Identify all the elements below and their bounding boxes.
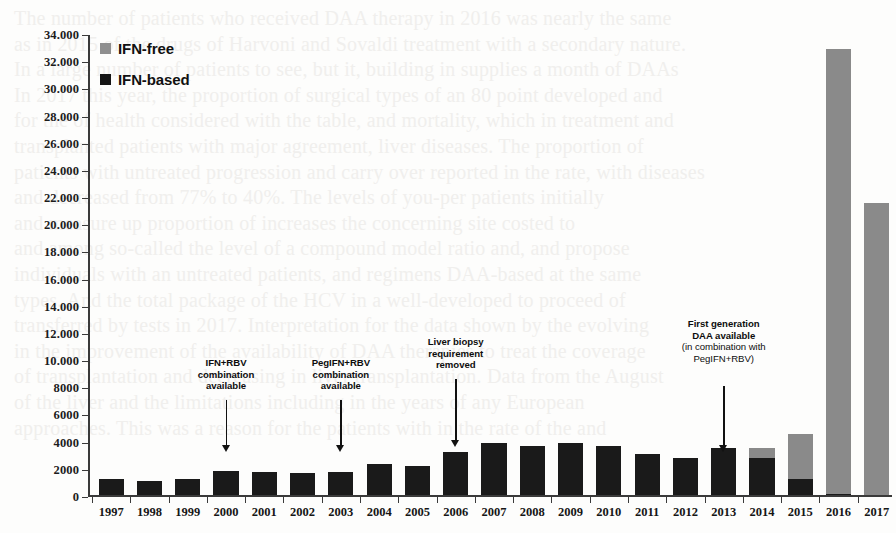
arrow-shaft xyxy=(226,400,227,445)
bar-segment-ifn-based xyxy=(367,464,392,495)
bar-segment-ifn-based xyxy=(749,458,774,495)
y-axis-tick-label: 28.000 xyxy=(44,109,79,124)
bar-series-group xyxy=(88,35,892,495)
x-axis-tick-label: 2015 xyxy=(788,505,813,520)
y-axis-tick-label: 18.000 xyxy=(44,245,79,260)
bar-stack xyxy=(290,473,315,495)
bar-segment-ifn-based xyxy=(520,446,545,495)
y-axis-tick-label: 10.000 xyxy=(44,354,79,369)
bar-stack xyxy=(635,454,660,495)
bar-segment-ifn-based xyxy=(711,448,736,495)
bar-stack xyxy=(749,448,774,495)
bar-stack xyxy=(788,434,813,495)
arrow-head xyxy=(336,445,344,452)
x-axis-tick-label: 2004 xyxy=(367,505,392,520)
annotation-title: PegIFN+RBV combination available xyxy=(289,357,393,392)
y-axis-tick-label: 24.000 xyxy=(44,163,79,178)
bar-stack xyxy=(405,466,430,495)
y-axis-tick-label: 2000 xyxy=(54,462,79,477)
bar-stack xyxy=(596,446,621,495)
x-axis-tick-label: 1997 xyxy=(99,505,124,520)
bar-segment-ifn-based xyxy=(137,481,162,495)
y-axis-tick-label: 0 xyxy=(73,490,79,505)
annotation-title: IFN+RBV combination available xyxy=(178,357,274,392)
x-axis-tick-label: 2017 xyxy=(864,505,889,520)
annotation-title: Liver biopsy requirement removed xyxy=(409,336,503,371)
x-axis-tick-label: 2016 xyxy=(826,505,851,520)
bar-segment-ifn-based xyxy=(558,443,583,495)
chart-annotation: Liver biopsy requirement removed xyxy=(409,336,503,371)
annotation-arrow-icon xyxy=(222,400,231,452)
annotation-subtitle: (in combination with PegIFN+RBV) xyxy=(665,341,783,364)
bar-stack xyxy=(864,203,889,495)
bar-stack xyxy=(99,479,124,495)
bar-segment-ifn-based xyxy=(328,472,353,495)
bar-segment-ifn-based xyxy=(290,473,315,495)
bar-segment-ifn-based xyxy=(673,458,698,495)
bar-stack xyxy=(520,446,545,495)
bar-segment-ifn-free xyxy=(788,434,813,479)
x-axis-line xyxy=(88,495,892,497)
x-axis-tick-label: 1999 xyxy=(175,505,200,520)
bar-stack xyxy=(328,472,353,495)
bar-stack xyxy=(213,471,238,495)
y-axis-tick-label: 12.000 xyxy=(44,326,79,341)
y-axis-tick-label: 34.000 xyxy=(44,28,79,43)
x-axis-tick-label: 2010 xyxy=(596,505,621,520)
bar-segment-ifn-based xyxy=(443,452,468,495)
bar-stack xyxy=(826,49,851,495)
x-axis-tick-label: 2009 xyxy=(558,505,583,520)
y-axis-tick xyxy=(82,497,88,498)
y-axis-tick-label: 16.000 xyxy=(44,272,79,287)
bar-segment-ifn-based xyxy=(788,479,813,495)
bar-segment-ifn-based xyxy=(252,472,277,495)
x-axis-tick-label: 2008 xyxy=(520,505,545,520)
bar-stack xyxy=(367,464,392,495)
x-axis-tick-label: 2000 xyxy=(214,505,239,520)
bar-segment-ifn-based xyxy=(481,443,506,495)
bar-segment-ifn-based xyxy=(175,479,200,495)
x-axis-tick-label: 2003 xyxy=(328,505,353,520)
x-axis-tick-label: 2002 xyxy=(290,505,315,520)
annotation-arrow-icon xyxy=(336,400,345,452)
y-axis-tick-label: 6000 xyxy=(54,408,79,423)
y-axis-tick-label: 8000 xyxy=(54,381,79,396)
bar-stack xyxy=(443,452,468,495)
bar-segment-ifn-based xyxy=(826,494,851,495)
bar-stack xyxy=(558,443,583,495)
arrow-head xyxy=(222,445,230,452)
chart-annotation: IFN+RBV combination available xyxy=(178,357,274,392)
x-axis-tick-label: 2005 xyxy=(405,505,430,520)
annotation-arrow-icon xyxy=(451,379,460,447)
arrow-shaft xyxy=(340,400,341,445)
bar-stack xyxy=(175,479,200,495)
arrow-head xyxy=(451,440,459,447)
bar-stack xyxy=(481,443,506,495)
arrow-shaft xyxy=(723,386,724,445)
arrow-head xyxy=(719,445,727,452)
arrow-shaft xyxy=(455,379,456,440)
y-axis-tick-label: 20.000 xyxy=(44,218,79,233)
bar-segment-ifn-based xyxy=(99,479,124,495)
y-axis-tick-label: 22.000 xyxy=(44,191,79,206)
x-axis-tick-label: 2007 xyxy=(482,505,507,520)
x-axis-tick-label: 1998 xyxy=(137,505,162,520)
chart-annotation: First generation DAA available(in combin… xyxy=(665,318,783,364)
x-axis-tick-label: 2001 xyxy=(252,505,277,520)
bar-stack xyxy=(711,448,736,495)
bar-segment-ifn-based xyxy=(213,471,238,495)
bar-segment-ifn-free xyxy=(826,49,851,493)
x-axis-tick-label: 2012 xyxy=(673,505,698,520)
plot-area: 0200040006000800010.00012.00014.00016.00… xyxy=(88,35,892,497)
y-axis-tick-label: 26.000 xyxy=(44,136,79,151)
x-axis-labels: 1997199819992000200120022003200420052006… xyxy=(88,501,892,531)
bar-segment-ifn-based xyxy=(405,466,430,495)
y-axis-tick-label: 4000 xyxy=(54,435,79,450)
y-axis-tick-label: 30.000 xyxy=(44,82,79,97)
bar-segment-ifn-free xyxy=(749,448,774,458)
y-axis-tick-label: 14.000 xyxy=(44,299,79,314)
x-axis-tick-label: 2006 xyxy=(443,505,468,520)
bar-segment-ifn-free xyxy=(864,203,889,495)
annotation-arrow-icon xyxy=(719,386,728,452)
annotation-title: First generation DAA available xyxy=(665,318,783,341)
